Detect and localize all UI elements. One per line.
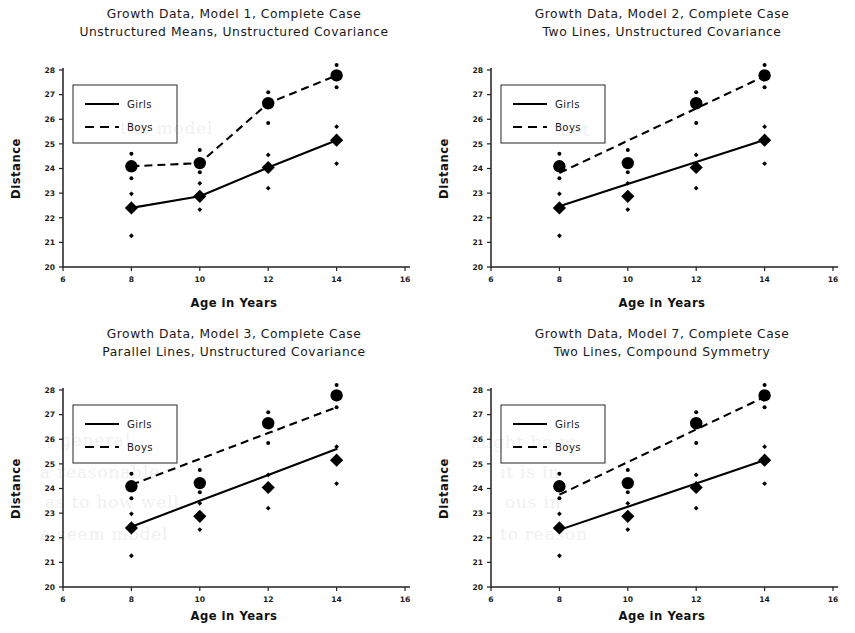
ci-dot-girls-lower	[557, 233, 562, 238]
legend-label-boys: Boys	[127, 122, 153, 133]
panel-model-1: Growth Data, Model 1, Complete CaseUnstr…	[0, 0, 428, 320]
ci-dot-boys-lower	[557, 176, 561, 180]
y-tick-label: 22	[472, 534, 483, 543]
ci-dot-girls-lower	[557, 553, 562, 558]
ci-dot-boys-lower	[763, 405, 767, 409]
data-point-girls	[330, 454, 343, 467]
ci-dot-boys-lower	[129, 496, 133, 500]
ci-dot-girls-upper	[334, 124, 339, 129]
y-tick-label: 26	[472, 435, 483, 444]
ci-dot-boys-upper	[626, 148, 630, 152]
x-tick-label: 16	[400, 595, 411, 604]
legend-box	[501, 85, 605, 143]
data-point-girls	[758, 134, 771, 147]
y-tick-label: 23	[472, 189, 483, 198]
ci-dot-boys-lower	[129, 176, 133, 180]
ci-dot-boys-upper	[763, 63, 767, 67]
x-tick-label: 6	[60, 595, 65, 604]
y-tick-label: 20	[472, 583, 483, 592]
ci-dot-girls-upper	[334, 444, 339, 449]
series-line-girls	[131, 140, 336, 208]
panel-subtitle: Two Lines, Compound Symmetry	[553, 345, 771, 359]
data-point-boys	[553, 480, 565, 492]
legend-label-girls: Girls	[555, 419, 580, 430]
data-point-girls	[262, 161, 275, 174]
x-tick-label: 6	[488, 275, 493, 284]
y-tick-label: 27	[472, 410, 483, 419]
ci-dot-girls-upper	[557, 511, 562, 516]
panel-title: Growth Data, Model 3, Complete Case	[107, 327, 362, 341]
y-tick-label: 21	[44, 238, 55, 247]
ci-dot-girls-lower	[129, 553, 134, 558]
data-point-boys	[125, 160, 137, 172]
ci-dot-girls-lower	[334, 481, 339, 486]
y-tick-label: 24	[44, 164, 55, 173]
ci-dot-boys-lower	[266, 121, 270, 125]
x-tick-label: 14	[759, 275, 770, 284]
legend-label-boys: Boys	[127, 442, 153, 453]
panel-title: Growth Data, Model 7, Complete Case	[535, 327, 790, 341]
y-tick-label: 20	[44, 263, 55, 272]
data-point-boys	[194, 477, 206, 489]
y-axis-label: Distance	[437, 458, 451, 519]
y-axis-label: Distance	[9, 138, 23, 199]
data-point-girls	[758, 454, 771, 467]
x-tick-label: 16	[828, 275, 839, 284]
y-tick-label: 23	[472, 509, 483, 518]
x-tick-label: 14	[759, 595, 770, 604]
y-tick-label: 23	[44, 509, 55, 518]
data-point-girls	[621, 190, 634, 203]
y-tick-label: 21	[472, 558, 483, 567]
figure-grid: Growth Data, Model 1, Complete CaseUnstr…	[0, 0, 855, 633]
ci-dot-boys-upper	[129, 152, 133, 156]
y-tick-label: 25	[472, 140, 483, 149]
ci-dot-boys-lower	[335, 405, 339, 409]
data-point-girls	[621, 510, 634, 523]
ci-dot-boys-upper	[129, 472, 133, 476]
y-tick-label: 24	[472, 164, 483, 173]
panel-subtitle: Two Lines, Unstructured Covariance	[542, 25, 782, 39]
ci-dot-boys-lower	[763, 85, 767, 89]
ci-dot-boys-lower	[557, 496, 561, 500]
x-tick-label: 12	[263, 595, 274, 604]
ci-dot-girls-lower	[625, 207, 630, 212]
x-tick-label: 6	[488, 595, 493, 604]
ci-dot-girls-lower	[762, 481, 767, 486]
legend-label-boys: Boys	[555, 442, 581, 453]
legend-label-girls: Girls	[127, 419, 152, 430]
y-tick-label: 27	[44, 90, 55, 99]
data-point-boys	[758, 69, 770, 81]
y-tick-label: 24	[44, 484, 55, 493]
legend-box	[501, 405, 605, 463]
legend-label-boys: Boys	[555, 122, 581, 133]
data-point-boys	[125, 480, 137, 492]
y-tick-label: 24	[472, 484, 483, 493]
ci-dot-girls-upper	[129, 511, 134, 516]
ci-dot-boys-upper	[266, 90, 270, 94]
ci-dot-girls-lower	[762, 161, 767, 166]
legend-label-girls: Girls	[127, 99, 152, 110]
ci-dot-girls-lower	[129, 233, 134, 238]
x-tick-label: 10	[623, 275, 634, 284]
ci-dot-girls-lower	[197, 207, 202, 212]
y-tick-label: 27	[472, 90, 483, 99]
data-point-girls	[193, 190, 206, 203]
ci-dot-boys-upper	[198, 468, 202, 472]
x-tick-label: 12	[691, 275, 702, 284]
ci-dot-girls-upper	[694, 153, 699, 158]
panel-title: Growth Data, Model 2, Complete Case	[535, 7, 790, 21]
y-axis-label: Distance	[437, 138, 451, 199]
x-tick-label: 10	[195, 595, 206, 604]
ci-dot-boys-lower	[266, 441, 270, 445]
ci-dot-girls-upper	[557, 191, 562, 196]
ci-dot-girls-upper	[129, 191, 134, 196]
data-point-boys	[622, 157, 634, 169]
data-point-boys	[330, 69, 342, 81]
ci-dot-girls-lower	[694, 506, 699, 511]
y-tick-label: 20	[472, 263, 483, 272]
x-tick-label: 16	[828, 595, 839, 604]
x-tick-label: 10	[623, 595, 634, 604]
ci-dot-girls-lower	[334, 161, 339, 166]
data-point-boys	[330, 389, 342, 401]
y-tick-label: 26	[44, 435, 55, 444]
